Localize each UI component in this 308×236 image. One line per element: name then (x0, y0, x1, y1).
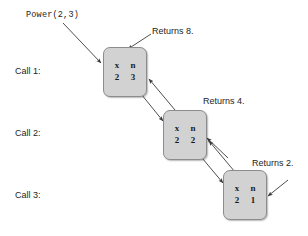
recursion-diagram: Power(2,3) Returns 8. Returns 4. Returns… (0, 0, 308, 236)
stack-frame-1-value-n: 3 (129, 72, 137, 84)
stack-frame-2-value-row: 2 2 (173, 135, 197, 147)
stack-frame-3: x n 2 1 (223, 170, 267, 220)
returns-label-8: Returns 8. (152, 26, 194, 36)
arrow-return-3-to-2 (209, 141, 235, 172)
stack-frame-2-header-n: n (189, 123, 197, 135)
stack-frame-3-header-x: x (233, 183, 241, 195)
arrow-returns-4 (207, 138, 228, 158)
stack-frame-2: x n 2 2 (163, 110, 207, 160)
stack-frame-1-header-row: x n (113, 60, 137, 72)
stack-frame-2-value-n: 2 (189, 135, 197, 147)
returns-label-4: Returns 4. (203, 96, 245, 106)
stack-frame-3-table: x n 2 1 (224, 171, 266, 219)
stack-frame-2-table: x n 2 2 (164, 111, 206, 159)
stack-frame-1-value-x: 2 (113, 72, 121, 84)
stack-frame-1-table: x n 2 3 (104, 48, 146, 96)
call-label-1: Call 1: (15, 66, 41, 76)
stack-frame-3-header-row: x n (233, 183, 257, 195)
stack-frame-1-value-row: 2 3 (113, 72, 137, 84)
stack-frame-1-header-n: n (129, 60, 137, 72)
returns-label-2: Returns 2. (252, 158, 294, 168)
stack-frame-1: x n 2 3 (103, 47, 147, 97)
stack-frame-3-value-x: 2 (233, 195, 241, 207)
stack-frame-3-header-n: n (249, 183, 257, 195)
arrow-initial-call (63, 23, 101, 63)
stack-frame-2-value-x: 2 (173, 135, 181, 147)
stack-frame-3-value-n: 1 (249, 195, 257, 207)
stack-frame-1-header-x: x (113, 60, 121, 72)
stack-frame-2-header-x: x (173, 123, 181, 135)
stack-frame-2-header-row: x n (173, 123, 197, 135)
initial-call-label: Power(2,3) (26, 10, 79, 20)
arrow-returns-2 (268, 180, 288, 196)
call-label-3: Call 3: (15, 190, 41, 200)
stack-frame-3-value-row: 2 1 (233, 195, 257, 207)
call-label-2: Call 2: (15, 128, 41, 138)
arrow-return-2-to-1 (149, 79, 175, 110)
